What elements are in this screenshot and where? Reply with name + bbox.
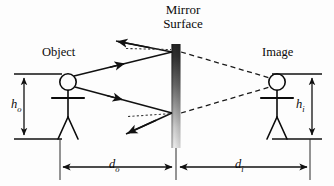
mirror-surface-title: Mirror Surface xyxy=(151,3,215,30)
incident-ray-lower xyxy=(75,87,172,113)
normal-line-upper xyxy=(126,49,171,50)
dimension-extension-lines xyxy=(60,139,310,180)
image-height-label: hi xyxy=(296,98,305,113)
object-distance-subscript: o xyxy=(115,164,119,174)
image-height-subscript: i xyxy=(302,104,304,114)
object-label: Object xyxy=(42,46,75,59)
object-distance-label: do xyxy=(109,158,120,173)
image-label: Image xyxy=(262,46,293,59)
object-height-subscript: o xyxy=(17,104,21,114)
object-stick-figure xyxy=(52,74,84,139)
reflected-ray-upper xyxy=(116,41,172,52)
image-distance-label: di xyxy=(235,158,244,173)
image-distance-subscript: i xyxy=(241,164,243,174)
image-stick-figure xyxy=(261,74,293,139)
virtual-ray-lower xyxy=(181,87,270,113)
mirror-title-line2: Surface xyxy=(151,17,215,31)
mirror-title-line1: Mirror xyxy=(151,3,215,17)
incident-ray-upper xyxy=(74,52,172,76)
mirror-reflection-diagram: Mirror Surface Object Image ho hi do di xyxy=(0,0,334,186)
object-height-label: ho xyxy=(11,98,22,113)
mirror-surface-bar xyxy=(172,44,181,148)
virtual-ray-upper xyxy=(181,52,270,78)
